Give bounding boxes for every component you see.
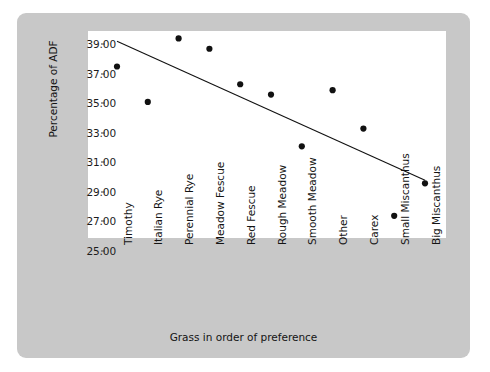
- data-point: [360, 125, 366, 131]
- scatter-plot-canvas: [88, 31, 446, 238]
- chart-panel: 39.0037.0035.0033.0031.0029.0027.0025.00…: [17, 13, 470, 358]
- y-axis-tick-label: 25.00: [58, 245, 116, 257]
- data-point: [422, 180, 428, 186]
- x-axis-category-label: Big Miscanthus: [430, 166, 442, 245]
- data-point: [268, 91, 274, 97]
- data-point: [391, 213, 397, 219]
- x-axis-category-label: Rough Meadow: [276, 165, 288, 245]
- data-point: [299, 143, 305, 149]
- data-point: [145, 99, 151, 105]
- data-point: [176, 35, 182, 41]
- trendline: [117, 41, 425, 180]
- y-axis-title: Percentage of ADF: [47, 9, 59, 169]
- plot-area: [88, 31, 446, 238]
- x-axis-category-label: Timothy: [122, 202, 134, 245]
- x-axis-category-label: Red Fescue: [245, 185, 257, 245]
- x-axis-category-label: Other: [337, 215, 349, 245]
- data-point: [114, 63, 120, 69]
- x-axis-category-label: Meadow Fescue: [214, 162, 226, 245]
- x-axis-category-label: Perennial Rye: [183, 174, 195, 245]
- x-axis-category-label: Smooth Meadow: [306, 158, 318, 245]
- data-point: [237, 81, 243, 87]
- x-axis-category-label: Italian Rye: [152, 190, 164, 245]
- x-axis-category-label: Carex: [368, 215, 380, 245]
- data-point: [330, 87, 336, 93]
- data-point: [206, 46, 212, 52]
- trendline-segment: [117, 41, 425, 180]
- x-axis-title: Grass in order of preference: [17, 331, 470, 343]
- x-axis-category-label: Small Miscanthus: [399, 153, 411, 245]
- y-axis-tick-mark: [101, 251, 105, 252]
